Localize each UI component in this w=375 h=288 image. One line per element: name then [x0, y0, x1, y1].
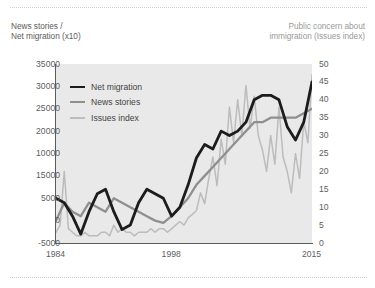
y2-tick-label: 15: [319, 185, 349, 194]
y2-tick-label: 5: [319, 221, 349, 230]
y-tick-label: 30000: [0, 82, 60, 91]
y-tick-label: 5000: [0, 194, 60, 203]
divider-bottom: [10, 277, 367, 279]
y2-tick-label: 0: [319, 239, 349, 248]
y2-tick-label: 25: [319, 149, 349, 158]
legend-item: News stories: [70, 95, 142, 111]
left-axis-title: News stories / Net migration (x10): [11, 21, 81, 42]
y-tick-label: 25000: [0, 104, 60, 113]
legend-swatch-icon: [70, 117, 85, 119]
x-axis-line: [55, 243, 313, 244]
x-tick-label: 2015: [302, 249, 321, 259]
y2-tick-label: 40: [319, 95, 349, 104]
legend-item: Issues index: [70, 110, 142, 126]
chart-legend: Net migrationNews storiesIssues index: [70, 79, 142, 126]
y2-tick-label: 45: [319, 77, 349, 86]
series-line-news-stories: [56, 109, 312, 223]
y-tick-label: -5000: [0, 239, 60, 248]
divider-top: [10, 7, 367, 9]
y-tick-label: 0: [0, 216, 60, 225]
right-axis-title: Public concern about immigration (Issues…: [269, 21, 365, 42]
y2-tick-label: 20: [319, 167, 349, 176]
legend-swatch-icon: [70, 86, 85, 88]
legend-item: Net migration: [70, 79, 142, 95]
y-tick-label: 15000: [0, 171, 60, 180]
y2-tick-label: 30: [319, 131, 349, 140]
y-tick-label: 20000: [0, 127, 60, 136]
legend-label: News stories: [91, 97, 140, 107]
legend-label: Issues index: [91, 113, 139, 123]
y-tick-label: 10000: [0, 149, 60, 158]
chart-figure: News stories / Net migration (x10) Publi…: [0, 0, 375, 288]
y2-tick-label: 35: [319, 113, 349, 122]
legend-label: Net migration: [91, 82, 142, 92]
y-tick-label: 35000: [0, 60, 60, 69]
y2-tick-label: 50: [319, 60, 349, 69]
x-tick-label: 1998: [162, 249, 181, 259]
y2-tick-label: 10: [319, 203, 349, 212]
x-tick-label: 1984: [46, 249, 65, 259]
legend-swatch-icon: [70, 101, 85, 103]
